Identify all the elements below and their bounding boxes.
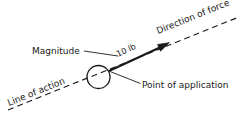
force-diagram-figure: Magnitude 10 lb Direction of force Line …	[0, 0, 245, 123]
point-of-application-label: Point of application	[142, 80, 228, 90]
force-diagram-canvas: Magnitude 10 lb Direction of force Line …	[0, 0, 245, 123]
magnitude-label: Magnitude	[32, 46, 80, 56]
figure-background	[0, 0, 245, 123]
